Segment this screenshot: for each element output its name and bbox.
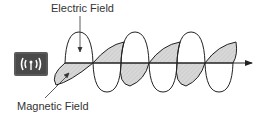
antenna-broadcast-icon bbox=[14, 52, 48, 76]
em-wave-diagram bbox=[0, 0, 267, 115]
label-pointers bbox=[45, 16, 82, 98]
